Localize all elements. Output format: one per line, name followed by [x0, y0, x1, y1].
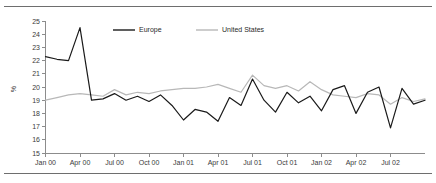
x-tick-label: Jul 02 [381, 159, 400, 166]
y-tick-label: 18 [32, 110, 40, 117]
legend-label-europe: Europe [139, 26, 162, 34]
x-tick-label: Jan 02 [311, 159, 332, 166]
x-tick-label: Jan 01 [173, 159, 194, 166]
x-tick-label: Oct 00 [139, 159, 160, 166]
chart-figure: 1516171819202122232425 Jan 00Apr 00Jul 0… [0, 0, 436, 183]
series-line-europe [46, 28, 426, 128]
series-line-united-states [46, 75, 426, 104]
y-tick-label: 17 [32, 123, 40, 130]
chart-legend: EuropeUnited States [113, 26, 265, 34]
y-tick-label: 16 [32, 136, 40, 143]
y-axis-title: % [10, 86, 17, 92]
y-axis-ticks: 1516171819202122232425 [32, 18, 45, 157]
x-tick-label: Oct 01 [277, 159, 298, 166]
x-axis-ticks: Jan 00Apr 00Jul 00Oct 00Jan 01Apr 01Jul … [35, 154, 400, 168]
y-tick-label: 20 [32, 84, 40, 91]
x-tick-label: Jul 01 [243, 159, 262, 166]
x-tick-label: Jan 00 [35, 159, 56, 166]
series-group [46, 28, 426, 128]
legend-label-united-states: United States [222, 26, 265, 33]
x-tick-label: Jul 00 [105, 159, 124, 166]
y-tick-label: 19 [32, 97, 40, 104]
line-chart: 1516171819202122232425 Jan 00Apr 00Jul 0… [0, 0, 436, 183]
y-tick-label: 24 [32, 31, 40, 38]
y-tick-label: 21 [32, 70, 40, 77]
x-tick-label: Apr 01 [208, 159, 229, 167]
x-tick-label: Apr 02 [346, 159, 367, 167]
y-tick-label: 15 [32, 150, 40, 157]
x-tick-label: Apr 00 [70, 159, 91, 167]
y-tick-label: 23 [32, 44, 40, 51]
y-tick-label: 25 [32, 18, 40, 25]
y-tick-label: 22 [32, 57, 40, 64]
